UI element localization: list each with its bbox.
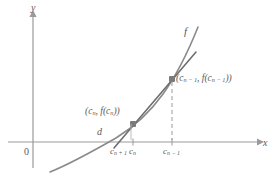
point-label-c-n: (cn, f(cn)) [85,107,120,117]
x-axis-label: x [263,138,267,148]
secant-method-figure: y x 0 f d (cn, f(cn)) (cn − 1, f(cn − 1)… [0,0,274,175]
origin-label: 0 [24,147,29,157]
tick-label-c-n-minus-1-sub2x: n − 1 [167,150,180,156]
figure-canvas [0,0,274,175]
point-label-c-n-f: f [100,106,103,116]
point-label-c-n-sub: n [92,109,95,116]
x-axis [8,138,264,145]
point-label-c-n-minus-1-sub2: n − 1 [212,76,226,83]
secant-line [114,52,196,148]
y-axis [29,10,36,168]
tick-label-c-n-minus-1: cn − 1 [163,147,180,157]
point-label-c-n-minus-1-sub: n − 1 [183,76,197,83]
point-label-c-n-minus-1-f: f [202,73,205,83]
point-marker-c-n-minus-1 [169,76,175,82]
y-axis-label: y [31,3,35,13]
tick-label-c-n-sub: n [133,150,136,156]
distance-label-d: d [97,127,102,137]
tick-label-c-n: cn [129,147,136,157]
point-label-c-n-minus-1: (cn − 1, f(cn − 1)) [176,74,232,84]
tick-label-c-n-plus-1-sub: n + 1 [114,150,127,156]
curve-label-f: f [184,26,187,37]
tick-label-c-n-plus-1: cn + 1 [110,147,127,157]
point-label-c-n-sub2: n [110,109,113,116]
